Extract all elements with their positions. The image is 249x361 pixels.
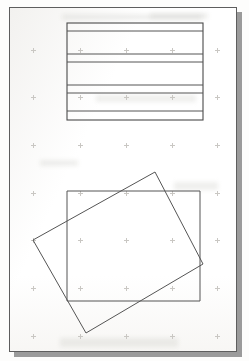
figure-layer [10,8,236,351]
axis-aligned-rectangle [67,191,200,301]
scan-page [0,0,249,361]
rotated-rectangle [33,172,203,333]
ruled-rectangle-outline [67,23,203,120]
figures-vector-canvas [10,8,236,351]
paper-sheet [9,7,237,352]
ruled-rectangle-figure [67,23,203,120]
overlapping-rectangles-figure [33,172,203,333]
ruled-rectangle-rules [67,31,203,111]
